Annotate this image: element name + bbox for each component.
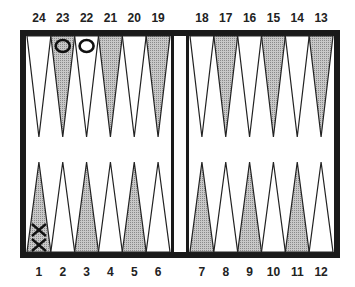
point-label-16: 16 xyxy=(243,11,257,25)
point-label-20: 20 xyxy=(128,11,142,25)
point-label-15: 15 xyxy=(267,11,281,25)
point-label-7: 7 xyxy=(199,265,206,279)
point-label-13: 13 xyxy=(314,11,328,25)
bar-right-edge xyxy=(186,30,189,258)
point-label-2: 2 xyxy=(59,265,66,279)
point-label-21: 21 xyxy=(104,11,118,25)
point-label-1: 1 xyxy=(36,265,43,279)
point-label-8: 8 xyxy=(222,265,229,279)
point-label-23: 23 xyxy=(56,11,70,25)
point-label-22: 22 xyxy=(80,11,94,25)
point-label-5: 5 xyxy=(131,265,138,279)
point-label-18: 18 xyxy=(195,11,209,25)
bar-left-edge xyxy=(171,30,174,258)
point-label-19: 19 xyxy=(151,11,165,25)
point-label-12: 12 xyxy=(314,265,328,279)
point-label-11: 11 xyxy=(291,265,304,279)
point-label-14: 14 xyxy=(291,11,305,25)
point-label-24: 24 xyxy=(32,11,46,25)
backgammon-board: 242322212019181716151413123456789101112 xyxy=(0,0,355,287)
point-label-3: 3 xyxy=(83,265,90,279)
point-label-6: 6 xyxy=(155,265,162,279)
bar xyxy=(174,36,186,252)
point-label-10: 10 xyxy=(267,265,281,279)
point-label-4: 4 xyxy=(107,265,114,279)
point-label-9: 9 xyxy=(246,265,253,279)
point-label-17: 17 xyxy=(219,11,233,25)
